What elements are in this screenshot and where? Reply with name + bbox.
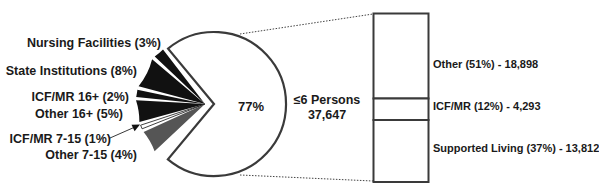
label-icf-7-15: ICF/MR 7-15 (1%) [10, 132, 111, 146]
bar-segment-other [374, 14, 429, 99]
breakdown-bar [374, 14, 429, 183]
bar-segment-supported-living [374, 120, 429, 182]
label-icf-16plus: ICF/MR 16+ (2%) [31, 90, 129, 104]
label-other-16plus: Other 16+ (5%) [35, 107, 123, 121]
persons-text: 6 Persons [301, 93, 361, 107]
connector-top [240, 14, 373, 34]
label-big-slice-percent: 77% [238, 99, 264, 114]
persons-count: 37,647 [292, 108, 362, 123]
label-bar-supported-living: Supported Living (37%) - 13,812 [433, 142, 599, 154]
arrow-line [110, 127, 135, 138]
label-other-7-15: Other 7-15 (4%) [45, 148, 137, 162]
connector-bottom [240, 175, 373, 181]
label-6-persons: ≤6 Persons 37,647 [292, 93, 362, 123]
label-bar-icf-mr: ICF/MR (12%) - 4,293 [433, 100, 541, 112]
le-symbol: ≤ [294, 93, 301, 107]
label-bar-other: Other (51%) - 18,898 [433, 58, 538, 70]
label-nursing-facilities: Nursing Facilities (3%) [27, 36, 161, 50]
label-state-institutions: State Institutions (8%) [6, 64, 137, 78]
bar-segment-icf-mr [374, 99, 429, 121]
